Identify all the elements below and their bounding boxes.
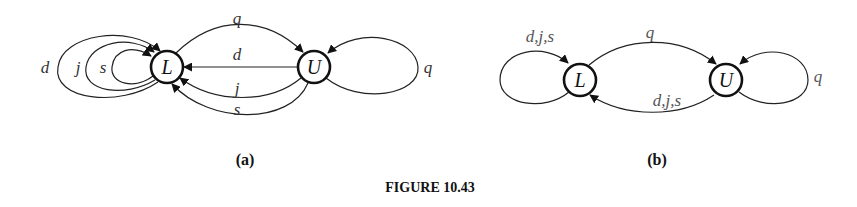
edge-a-L-L-s (112, 50, 153, 84)
panel-a: L U d j s q d j s q (a) (41, 9, 433, 169)
edge-label-b-LL-djs: d,j,s (526, 27, 555, 46)
edge-b-L-L-djs (500, 51, 569, 103)
edge-label-a-UL-s: s (234, 100, 241, 119)
edge-label-b-UU-q: q (814, 67, 823, 86)
edge-b-L-U-q (589, 42, 716, 65)
edge-a-U-L-j (180, 78, 301, 98)
edge-label-b-UL-djs: d,j,s (653, 91, 682, 110)
edge-a-U-U-q (326, 37, 418, 93)
node-label: U (719, 69, 735, 91)
edge-label-a-LU-q: q (233, 9, 242, 28)
edge-label-b-LU-q: q (646, 23, 655, 42)
node-label: U (307, 56, 323, 78)
edge-a-L-L-j (86, 42, 155, 90)
panel-label-a: (a) (236, 151, 255, 169)
edge-label-a-UL-j: j (233, 79, 240, 98)
figure-caption: FIGURE 10.43 (385, 180, 474, 195)
edge-label-a-loop-j: j (74, 58, 81, 77)
edge-label-a-loop-d: d (41, 58, 50, 77)
node-a-U: U (298, 51, 330, 83)
figure-canvas: L U d j s q d j s q (a) L U (0, 0, 857, 207)
node-a-L: L (151, 51, 183, 83)
edge-label-a-UU-q: q (424, 58, 433, 77)
edge-label-a-loop-s: s (100, 58, 107, 77)
node-label: L (160, 56, 172, 78)
node-b-U: U (710, 64, 742, 96)
edge-label-a-UL-d: d (233, 45, 242, 64)
node-label: L (573, 69, 585, 91)
panel-label-b: (b) (647, 151, 667, 169)
panel-b: L U d,j,s q d,j,s q (b) (500, 23, 823, 169)
edge-b-U-U-q (739, 52, 808, 104)
node-b-L: L (564, 64, 596, 96)
